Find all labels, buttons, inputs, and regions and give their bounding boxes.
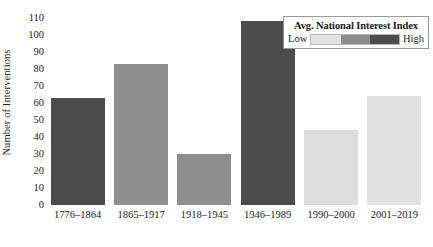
legend-swatch <box>311 35 340 44</box>
legend-low-label: Low <box>288 33 307 45</box>
x-axis-tick-labels: 1776–18641865–19171918–19451946–19891990… <box>46 208 426 226</box>
x-axis-tick-label: 1776–1864 <box>43 208 113 222</box>
x-axis-tick-label: 2001–2019 <box>359 208 429 222</box>
x-axis-tick-label: 1865–1917 <box>106 208 176 222</box>
y-axis-title: Number of Interventions <box>0 0 14 205</box>
bar-chart: Number of Interventions 0102030405060708… <box>0 0 433 247</box>
legend: Avg. National Interest Index Low High <box>283 16 429 49</box>
x-axis-tick-label: 1918–1945 <box>169 208 239 222</box>
legend-title: Avg. National Interest Index <box>288 19 424 32</box>
x-axis-tick-label: 1990–2000 <box>296 208 366 222</box>
legend-high-label: High <box>403 33 424 45</box>
bar-rect <box>367 96 421 205</box>
bar-rect <box>51 98 105 205</box>
bar-rect <box>114 64 168 205</box>
legend-swatch <box>370 35 399 44</box>
bar-rect <box>304 130 358 205</box>
x-axis-tick-label: 1946–1989 <box>233 208 303 222</box>
legend-swatch <box>341 35 370 44</box>
bar-rect <box>177 154 231 205</box>
legend-gradient-bar <box>310 34 400 45</box>
legend-scale: Low High <box>288 33 424 45</box>
